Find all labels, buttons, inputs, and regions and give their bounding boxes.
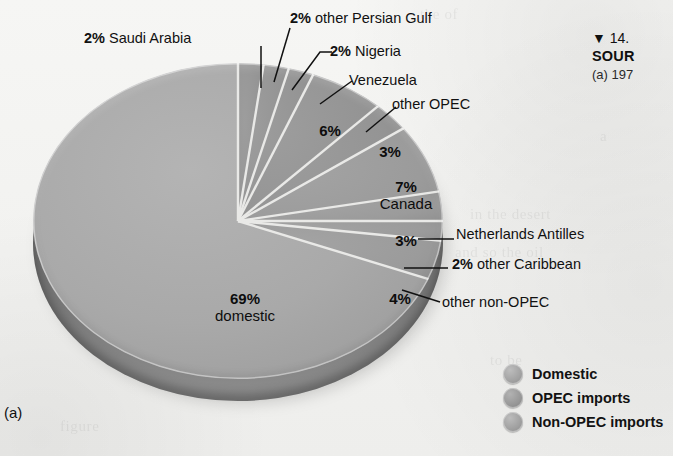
legend: Domestic OPEC imports Non-OPEC imports [503,362,663,434]
domestic-name: domestic [215,307,275,324]
callout-other-caribbean: 2% other Caribbean [452,256,581,272]
other-persian-gulf-pct: 2% [290,10,311,26]
saudi-arabia-pct: 2% [84,30,105,46]
legend-label-non-opec-imports: Non-OPEC imports [532,414,663,430]
callout-saudi-arabia: 2% Saudi Arabia [84,30,191,46]
other-caribbean-name: other Caribbean [477,256,581,272]
slice-label-domestic: 69% domestic [185,290,305,324]
other-caribbean-pct: 2% [452,256,473,272]
callout-netherlands-antilles: Netherlands Antilles [456,226,584,242]
venezuela-name: Venezuela [349,72,417,88]
leader-line-venezuela [318,78,354,108]
slice-pct-other-opec: 3% [370,143,410,160]
legend-label-domestic: Domestic [532,366,597,382]
other-persian-gulf-name: other Persian Gulf [315,10,432,26]
panel-label-a: (a) [4,404,22,421]
leader-line-saudi-arabia [258,46,270,90]
nigeria-name: Nigeria [355,43,401,59]
circle-swatch-icon [503,412,523,432]
page-bleed-through: a [600,128,607,145]
leader-line-other-caribbean [404,263,452,273]
canada-pct: 7% [395,178,417,195]
figure-number: ▼ 14. [592,30,673,46]
leader-line-other-opec [364,104,398,136]
callout-other-non-opec: other non-OPEC [442,294,549,310]
legend-item-domestic: Domestic [503,362,663,386]
slice-pct-venezuela: 6% [310,122,350,139]
page-bleed-through: in the desert [470,206,551,223]
figure-caption: ▼ 14. SOUR (a) 197 [592,30,673,82]
saudi-arabia-name: Saudi Arabia [109,30,191,46]
legend-item-non-opec-imports: Non-OPEC imports [503,410,663,434]
figure-source-heading: SOUR [592,48,673,64]
leader-line-netherlands-antilles [418,234,458,244]
legend-item-opec-imports: OPEC imports [503,386,663,410]
domestic-pct: 69% [230,290,260,307]
circle-swatch-icon [503,364,523,384]
other-opec-name: other OPEC [392,96,470,112]
figure-source-note: (a) 197 [592,67,673,82]
leader-line-other-non-opec [402,288,444,306]
callout-nigeria: 2% Nigeria [330,43,401,59]
canada-name: Canada [380,195,433,212]
legend-label-opec-imports: OPEC imports [532,390,630,406]
callout-other-persian-gulf: 2% other Persian Gulf [290,10,432,26]
slice-label-canada: 7% Canada [375,178,437,212]
callout-other-opec: other OPEC [392,96,470,112]
circle-swatch-icon [503,388,523,408]
callout-venezuela: Venezuela [349,72,417,88]
